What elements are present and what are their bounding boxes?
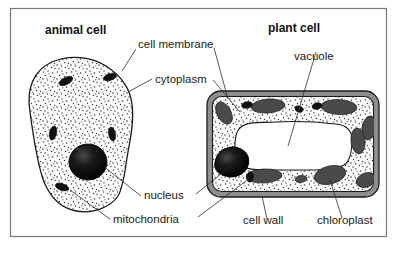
label-nucleus: nucleus xyxy=(144,189,184,201)
label-cell-wall: cell wall xyxy=(243,214,283,226)
cell-diagram-figure: animal cell plant cell cell membrane cyt… xyxy=(0,0,397,253)
label-vacuole: vacuole xyxy=(294,50,334,62)
label-mitochondria: mitochondria xyxy=(113,213,179,225)
animal-cell-title: animal cell xyxy=(45,23,106,37)
plant-cell-group xyxy=(207,91,379,197)
diagram-canvas: animal cell plant cell cell membrane cyt… xyxy=(0,0,397,253)
label-chloroplast: chloroplast xyxy=(317,214,373,226)
plant-cell-title: plant cell xyxy=(268,21,320,35)
label-cell-membrane: cell membrane xyxy=(138,38,213,50)
animal-nucleus xyxy=(69,144,107,180)
label-cytoplasm: cytoplasm xyxy=(155,73,207,85)
